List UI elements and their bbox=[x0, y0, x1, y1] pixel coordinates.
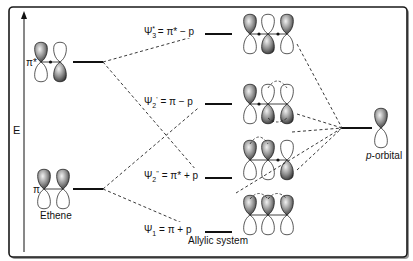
ethene-label: Ethene bbox=[40, 210, 72, 221]
pi-label: π bbox=[33, 184, 40, 195]
pi-star-label: π* bbox=[26, 57, 37, 68]
mo-diagram: E π* π Ethene Ψ3* bbox=[0, 0, 413, 261]
axis-label-energy: E bbox=[13, 124, 20, 136]
allyl-system-label: Allylic system bbox=[188, 235, 248, 246]
diagram-frame bbox=[9, 7, 409, 259]
psi2p-orbital bbox=[244, 81, 294, 124]
psi3-label: Ψ3* = π* − p bbox=[144, 25, 195, 39]
psi3-orbital bbox=[244, 14, 294, 54]
p-orbital-label: p-orbital bbox=[365, 150, 402, 161]
psi2pp-orbital bbox=[244, 137, 294, 180]
node-dot bbox=[49, 60, 52, 63]
